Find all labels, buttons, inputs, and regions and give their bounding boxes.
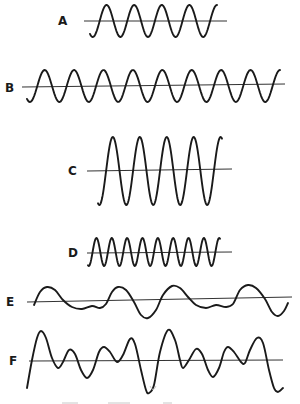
- wave-label-a: A: [58, 14, 68, 28]
- waveform-diagram: A B C D E F: [0, 0, 300, 404]
- wave-group-c: C: [68, 137, 232, 205]
- wave-group-a: A: [58, 5, 227, 37]
- waveform-f: [27, 330, 283, 394]
- wave-group-b: B: [5, 70, 285, 102]
- waveform-d: [88, 238, 220, 266]
- wave-group-e: E: [6, 285, 292, 318]
- wave-label-b: B: [5, 81, 14, 95]
- wave-group-d: D: [68, 238, 232, 266]
- wave-label-f: F: [9, 354, 17, 368]
- footer-faint-marks: [62, 386, 172, 403]
- wave-label-c: C: [68, 164, 77, 178]
- baseline-f: [29, 360, 283, 361]
- baseline-b: [22, 84, 285, 87]
- wave-label-d: D: [68, 246, 78, 260]
- wave-label-e: E: [6, 295, 14, 309]
- wave-group-f: F: [9, 330, 283, 394]
